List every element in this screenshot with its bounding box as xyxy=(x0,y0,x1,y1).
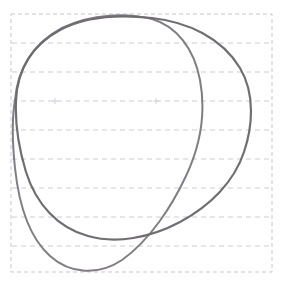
sketch-surface xyxy=(0,0,282,281)
sketch-canvas xyxy=(0,0,282,281)
